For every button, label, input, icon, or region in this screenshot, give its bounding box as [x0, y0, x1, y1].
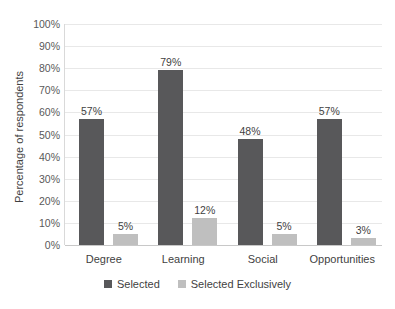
y-axis-tick-label: 0% [22, 239, 60, 251]
y-axis-tick-labels: 0%10%20%30%40%50%60%70%80%90%100% [22, 18, 60, 252]
bar-value-label: 79% [160, 56, 181, 68]
legend-swatch-icon [104, 280, 112, 288]
bar-value-label: 48% [239, 125, 260, 137]
y-axis-tick-label: 30% [22, 173, 60, 185]
y-axis-tick-label: 100% [22, 18, 60, 30]
bar[interactable]: 79% [158, 70, 183, 245]
bar[interactable]: 12% [192, 218, 217, 245]
bar[interactable]: 48% [238, 139, 263, 245]
legend-item[interactable]: Selected Exclusively [178, 278, 291, 290]
bar-group: 48%5% [224, 24, 303, 245]
y-axis-tick-label: 70% [22, 84, 60, 96]
bar[interactable]: 3% [351, 238, 376, 245]
bar-chart: Percentage of respondents 0%10%20%30%40%… [0, 0, 395, 309]
legend-item[interactable]: Selected [104, 278, 160, 290]
bar[interactable]: 57% [317, 119, 342, 245]
y-axis-tick-label: 80% [22, 62, 60, 74]
x-axis-category-labels: DegreeLearningSocialOpportunities [64, 249, 382, 269]
bar-value-label: 57% [319, 105, 340, 117]
y-axis-tick-label: 60% [22, 106, 60, 118]
bar[interactable]: 5% [272, 234, 297, 245]
y-axis-tick-label: 20% [22, 195, 60, 207]
x-axis-category-label: Social [223, 249, 303, 269]
legend-swatch-icon [178, 280, 186, 288]
bar-value-label: 5% [118, 220, 133, 232]
axis-baseline [65, 245, 382, 246]
x-axis-category-label: Degree [64, 249, 144, 269]
bar-value-label: 12% [194, 204, 215, 216]
x-axis-category-label: Opportunities [303, 249, 383, 269]
y-axis-tick-label: 40% [22, 151, 60, 163]
bar-groups: 57%5%79%12%48%5%57%3% [65, 24, 382, 245]
bar-group: 57%5% [65, 24, 144, 245]
bar-value-label: 3% [356, 224, 371, 236]
y-axis-tick-label: 50% [22, 129, 60, 141]
y-axis-tick-label: 90% [22, 40, 60, 52]
bar[interactable]: 57% [79, 119, 104, 245]
x-axis-category-label: Learning [144, 249, 224, 269]
legend-label: Selected Exclusively [191, 278, 291, 290]
bar-group: 79%12% [144, 24, 223, 245]
y-axis-tick-label: 10% [22, 217, 60, 229]
legend-label: Selected [117, 278, 160, 290]
chart-legend: SelectedSelected Exclusively [0, 278, 395, 290]
plot-area: 57%5%79%12%48%5%57%3% [64, 24, 382, 245]
bar[interactable]: 5% [113, 234, 138, 245]
bar-value-label: 5% [276, 220, 291, 232]
bar-group: 57%3% [303, 24, 382, 245]
bar-value-label: 57% [81, 105, 102, 117]
